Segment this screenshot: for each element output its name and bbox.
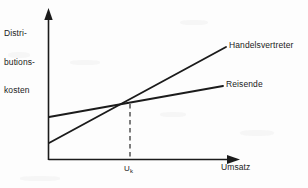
y-axis-arrow-icon: [44, 8, 52, 20]
line-handelsvertreter: [49, 47, 226, 143]
break-even-tick-subscript: k: [130, 168, 133, 174]
y-axis-label-line-1: Distri-: [4, 29, 35, 39]
series-label-reisende: Reisende: [226, 80, 263, 90]
y-axis: [44, 8, 52, 160]
x-axis: [49, 155, 241, 164]
y-axis-label: Distri- butions- kosten: [4, 10, 35, 115]
y-axis-label-line-3: kosten: [4, 86, 35, 96]
figure-container: Distri- butions- kosten Umsatz Handelsve…: [0, 0, 308, 188]
line-reisende: [49, 86, 223, 117]
x-axis-label: Umsatz: [221, 163, 250, 173]
series-label-handelsvertreter: Handelsvertreter: [229, 41, 293, 51]
break-even-tick-label: Uk: [124, 164, 133, 175]
chart-plot: [0, 0, 308, 188]
y-axis-label-line-2: butions-: [4, 58, 35, 68]
break-even-tick-letter: U: [124, 164, 130, 173]
